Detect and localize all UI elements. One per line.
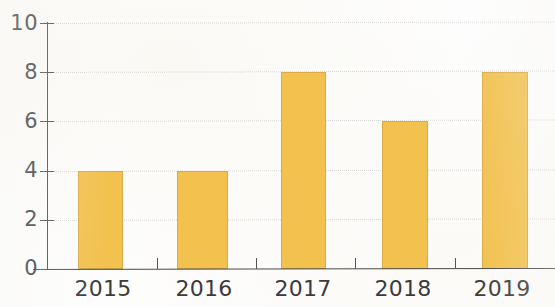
y-tick-10: [40, 23, 54, 24]
bar-2015[interactable]: [78, 171, 123, 269]
y-axis-label-2: 2: [2, 209, 38, 230]
x-axis-label-2017: 2017: [253, 274, 353, 304]
y-tick-8: [40, 72, 54, 73]
x-tick-4: [455, 258, 456, 269]
y-axis-label-4: 4: [2, 160, 38, 181]
x-axis-label-2019: 2019: [452, 274, 552, 304]
y-tick-2: [40, 220, 54, 221]
y-axis-label-10: 10: [2, 13, 38, 34]
y-axis-label-8: 8: [2, 62, 38, 83]
x-axis-label-2016: 2016: [154, 274, 254, 304]
x-tick-1: [157, 258, 158, 269]
x-axis-label-2018: 2018: [353, 274, 453, 304]
x-tick-3: [355, 258, 356, 269]
x-axis-line: [33, 268, 555, 270]
y-tick-4: [40, 171, 54, 172]
y-axis-labels: 10 8 6 4 2 0: [0, 0, 38, 307]
x-tick-2: [256, 258, 257, 269]
x-axis-label-2015: 2015: [53, 274, 153, 304]
y-tick-0: [40, 269, 54, 270]
y-axis-label-6: 6: [2, 111, 38, 132]
y-axis-line: [47, 22, 48, 270]
y-tick-6: [40, 121, 54, 122]
bar-2016[interactable]: [177, 171, 228, 269]
bar-2019[interactable]: [482, 72, 528, 269]
bar-chart: 10 8 6 4 2 0 2015 2016 2017 2018 2019: [0, 0, 555, 307]
bars-layer: [48, 23, 555, 269]
bar-2018[interactable]: [382, 121, 428, 269]
bar-2017[interactable]: [281, 72, 326, 269]
x-axis-labels: 2015 2016 2017 2018 2019: [0, 274, 555, 307]
